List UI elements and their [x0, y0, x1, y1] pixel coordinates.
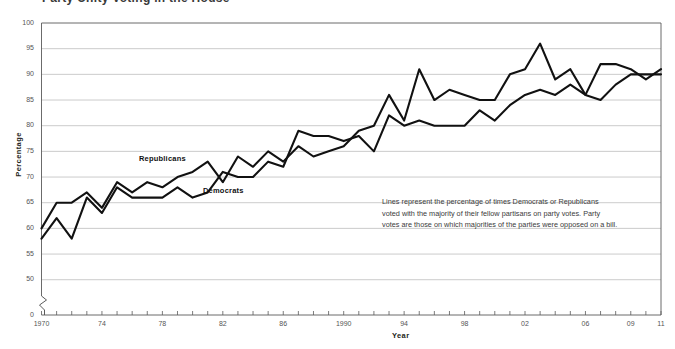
y-tick-label: 60 — [10, 224, 34, 231]
y-tick-label: 85 — [10, 96, 34, 103]
chart-canvas — [0, 0, 675, 349]
x-tick-label: 1970 — [24, 320, 60, 327]
chart-annotation-note: Lines represent the percentage of times … — [382, 196, 618, 231]
y-tick-label: 95 — [10, 44, 34, 51]
series-label-democrats: Democrats — [203, 186, 244, 195]
series-label-republicans: Republicans — [139, 154, 186, 163]
x-tick-label: 86 — [265, 320, 301, 327]
gridlines-group — [42, 49, 662, 280]
x-tick-label: 06 — [567, 320, 603, 327]
x-tick-label: 02 — [507, 320, 543, 327]
x-tick-label: 74 — [84, 320, 120, 327]
x-tick-label: 78 — [144, 320, 180, 327]
y-tick-label-zero: 0 — [10, 311, 34, 318]
y-tick-label: 55 — [10, 250, 34, 257]
chart-root: Party Unity Voting in the House Percenta… — [0, 0, 675, 349]
x-tick-label: 94 — [386, 320, 422, 327]
x-tick-label: 98 — [447, 320, 483, 327]
y-tick-label: 80 — [10, 121, 34, 128]
y-tick-label: 100 — [10, 19, 34, 26]
axis-line — [40, 296, 47, 315]
x-tick-label: 1990 — [326, 320, 362, 327]
x-tick-label: 11 — [643, 320, 675, 327]
y-tick-label: 90 — [10, 70, 34, 77]
x-axis-title: Year — [392, 331, 409, 340]
y-tick-label: 65 — [10, 198, 34, 205]
axis-group — [40, 23, 662, 315]
y-tick-label: 70 — [10, 173, 34, 180]
x-tick-marks — [42, 311, 662, 315]
y-tick-label: 75 — [10, 147, 34, 154]
x-tick-label: 82 — [205, 320, 241, 327]
y-tick-label: 50 — [10, 275, 34, 282]
